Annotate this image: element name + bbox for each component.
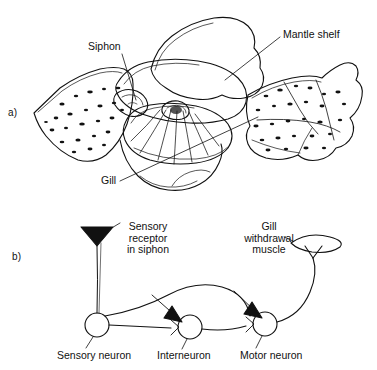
interneuron-soma <box>178 315 202 339</box>
panel-b-circuit <box>0 0 377 370</box>
sensory-receptor-icon <box>81 227 113 246</box>
label-interneuron: Interneuron <box>157 350 211 362</box>
figure-container: a) <box>0 0 377 370</box>
interneuron-leader <box>182 339 187 349</box>
label-sensory-receptor: Sensory receptor in siphon <box>113 221 183 256</box>
sensory-receptor-axon-edge <box>99 243 101 313</box>
sensory-receptor-axon <box>97 246 98 313</box>
motor-neuron-axon <box>277 258 315 322</box>
sensory-to-interneuron-axon <box>109 325 171 328</box>
label-gill-withdrawal-muscle: Gill withdrawal muscle <box>238 221 300 256</box>
synapse-arrow-motor-head <box>244 302 262 318</box>
sensory-to-motor-arc-axon <box>105 285 250 316</box>
motor-neuron-leader <box>256 336 262 348</box>
sensory-neuron-soma <box>85 313 109 337</box>
interneuron-to-motor-axon <box>202 326 246 330</box>
label-motor-neuron: Motor neuron <box>240 350 302 362</box>
sensory-neuron-leader <box>86 337 93 348</box>
label-sensory-neuron: Sensory neuron <box>57 350 131 362</box>
